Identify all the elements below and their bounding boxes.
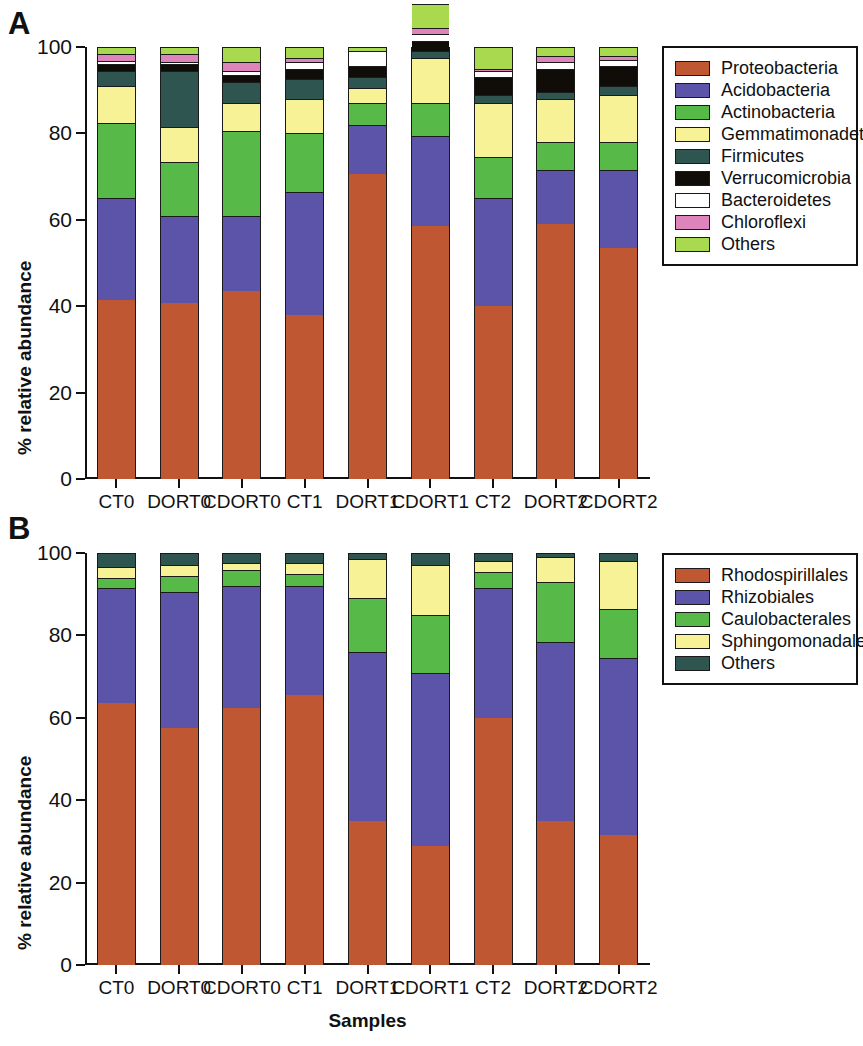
bar-segment[interactable] [537,642,574,821]
bar-segment[interactable] [475,157,512,198]
bar-segment[interactable] [286,69,323,80]
stacked-bar[interactable] [222,47,261,479]
stacked-bar[interactable] [285,553,324,965]
bar-segment[interactable] [223,82,260,104]
stacked-bar[interactable] [599,47,638,479]
bar-segment[interactable] [475,553,512,561]
bar-segment[interactable] [475,47,512,69]
bar-segment[interactable] [475,572,512,588]
bar-segment[interactable] [537,142,574,170]
bar-segment[interactable] [412,846,449,965]
bar-segment[interactable] [412,58,449,103]
bar-segment[interactable] [98,198,135,300]
stacked-bar[interactable] [222,553,261,965]
bar-segment[interactable] [223,131,260,215]
bar-segment[interactable] [600,835,637,965]
bar-segment[interactable] [349,88,386,103]
bar-segment[interactable] [98,54,135,61]
legend-item[interactable]: Others [675,233,846,255]
legend-item[interactable]: Sphingomonadales [675,630,846,652]
bar-segment[interactable] [286,133,323,191]
bar-segment[interactable] [223,586,260,708]
legend-item[interactable]: Gemmatimonadetes [675,123,846,145]
bar-segment[interactable] [600,95,637,143]
bar-segment[interactable] [98,703,135,965]
bar-segment[interactable] [349,559,386,598]
bar-segment[interactable] [161,162,198,216]
bar-segment[interactable] [98,578,135,588]
stacked-bar[interactable] [599,553,638,965]
stacked-bar[interactable] [474,553,513,965]
bar-segment[interactable] [412,41,449,52]
stacked-bar[interactable] [474,47,513,479]
bar-segment[interactable] [349,821,386,965]
bar-segment[interactable] [537,582,574,642]
bar-segment[interactable] [475,198,512,306]
bar-segment[interactable] [600,86,637,95]
stacked-bar[interactable] [536,553,575,965]
bar-segment[interactable] [286,563,323,573]
bar-segment[interactable] [161,576,198,592]
bar-segment[interactable] [223,291,260,479]
bar-segment[interactable] [600,142,637,170]
legend-item[interactable]: Verrucomicrobia [675,167,846,189]
bar-segment[interactable] [161,553,198,565]
bar-segment[interactable] [600,66,637,85]
bar-segment[interactable] [475,718,512,965]
bar-segment[interactable] [600,47,637,56]
bar-segment[interactable] [475,77,512,94]
bar-segment[interactable] [161,565,198,575]
bar-segment[interactable] [223,47,260,62]
bar-segment[interactable] [349,125,386,175]
bar-segment[interactable] [349,174,386,479]
legend-item[interactable]: Caulobacterales [675,608,846,630]
bar-segment[interactable] [537,99,574,142]
bar-segment[interactable] [600,609,637,658]
legend-item[interactable]: Proteobacteria [675,57,846,79]
bar-segment[interactable] [537,821,574,965]
bar-segment[interactable] [600,553,637,561]
bar-segment[interactable] [286,192,323,315]
bar-segment[interactable] [98,553,135,567]
bar-segment[interactable] [161,216,198,303]
legend-item[interactable]: Bacteroidetes [675,189,846,211]
bar-segment[interactable] [537,224,574,479]
legend-item[interactable]: Firmicutes [675,145,846,167]
bar-segment[interactable] [161,71,198,127]
bar-segment[interactable] [98,71,135,86]
bar-segment[interactable] [161,54,198,63]
bar-segment[interactable] [349,103,386,125]
bar-segment[interactable] [286,574,323,586]
bar-segment[interactable] [286,553,323,563]
stacked-bar[interactable] [348,553,387,965]
bar-segment[interactable] [475,103,512,157]
bar-segment[interactable] [223,103,260,131]
bar-segment[interactable] [161,127,198,162]
bar-segment[interactable] [537,47,574,56]
stacked-bar[interactable] [348,47,387,479]
bar-segment[interactable] [286,695,323,965]
bar-segment[interactable] [98,300,135,479]
bar-segment[interactable] [475,561,512,571]
bar-segment[interactable] [600,658,637,835]
bar-segment[interactable] [412,615,449,673]
bar-segment[interactable] [98,567,135,577]
bar-segment[interactable] [161,728,198,965]
bar-segment[interactable] [349,51,386,66]
stacked-bar[interactable] [97,47,136,479]
stacked-bar[interactable] [160,553,199,965]
bar-segment[interactable] [412,673,449,846]
bar-segment[interactable] [412,4,449,28]
bar-segment[interactable] [412,565,449,614]
bar-segment[interactable] [600,561,637,608]
bar-segment[interactable] [537,69,574,93]
bar-segment[interactable] [600,170,637,248]
bar-segment[interactable] [286,47,323,58]
legend-item[interactable]: Actinobacteria [675,101,846,123]
bar-segment[interactable] [223,62,260,71]
bar-segment[interactable] [286,99,323,134]
bar-segment[interactable] [475,588,512,718]
stacked-bar[interactable] [97,553,136,965]
legend-item[interactable]: Acidobacteria [675,79,846,101]
bar-segment[interactable] [475,306,512,479]
